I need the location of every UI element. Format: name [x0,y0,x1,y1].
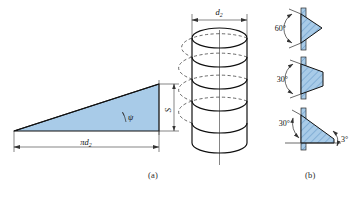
profile2-lower-flank-ext [290,94,301,98]
profile2-tooth [301,64,323,94]
profile3-angle-label-3: 3° [341,135,348,144]
profile1-tooth [301,14,322,43]
profile3-angle-label-30: 30° [279,119,290,128]
profile1-upper-flank-ext [289,9,301,14]
profile3-tooth [301,115,334,143]
profile3-flank-ext [292,110,301,115]
panel-a-unrolled-helix: ψ S πd2 [14,80,179,152]
profile-buttress-30-3: 30° 3° [279,108,348,150]
caption-a: (a) [148,170,158,180]
panel-b-cylinder: d2 [179,7,247,165]
S-dimension-label: S [163,107,173,112]
d2-label-sub: 2 [220,12,223,18]
helix-back-3 [179,97,247,123]
profile2-upper-flank-ext [290,60,301,64]
profile1-angle-label: 60° [275,24,286,33]
profile-trapezoidal-30: 30° [277,57,323,99]
base-dimension-label: πd2 [80,137,92,148]
profile1-lower-flank-ext [289,43,301,48]
technical-figure: ψ S πd2 d2 [0,0,359,199]
profile2-angle-label: 30° [277,75,288,84]
caption-b: (b) [305,170,316,180]
profile-triangular-60: 60° [275,8,322,50]
d2-dimension-label: d2 [215,7,222,18]
psi-angle-label: ψ [128,112,134,122]
base-label-sub: 2 [89,142,92,148]
profile3-angle-arc-30 [293,118,299,138]
